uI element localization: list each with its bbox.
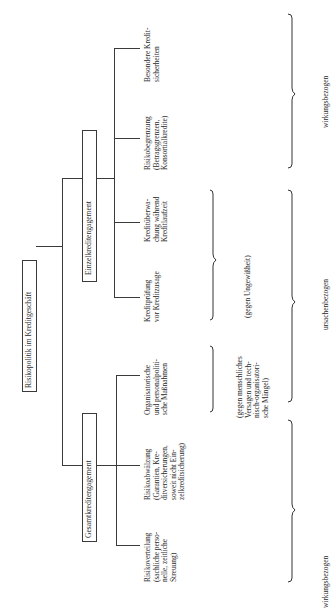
brace-gegen-ungewissheit	[210, 190, 216, 320]
brace-organisatorisch	[210, 346, 213, 412]
brace-wirkungsbezogen-bottom	[288, 420, 295, 582]
brace-ursachenbezogen	[288, 190, 295, 402]
brace-wirkungsbezogen-top	[288, 14, 295, 168]
braces	[0, 0, 334, 608]
